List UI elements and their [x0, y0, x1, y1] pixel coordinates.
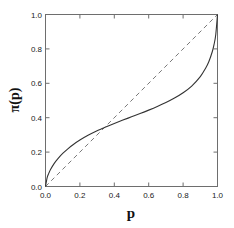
chart-figure: 0.00.20.40.60.81.0 0.00.20.40.60.81.0 p … — [0, 0, 234, 228]
x-tick-label: 0.2 — [74, 191, 85, 200]
y-tick-label: 0.0 — [20, 182, 42, 191]
y-tick-label: 1.0 — [20, 10, 42, 19]
x-tick-label: 0.0 — [40, 191, 51, 200]
x-tick-label: 0.6 — [143, 191, 154, 200]
y-tick-label: 0.2 — [20, 148, 42, 157]
x-tick-label: 0.4 — [109, 191, 120, 200]
x-axis-label: p — [127, 205, 135, 222]
y-tick-label: 0.6 — [20, 79, 42, 88]
y-axis-label: π(p) — [7, 88, 23, 113]
x-tick-label: 0.8 — [178, 191, 189, 200]
y-tick-label: 0.8 — [20, 44, 42, 53]
x-tick-label: 1.0 — [212, 191, 223, 200]
y-tick-label: 0.4 — [20, 113, 42, 122]
